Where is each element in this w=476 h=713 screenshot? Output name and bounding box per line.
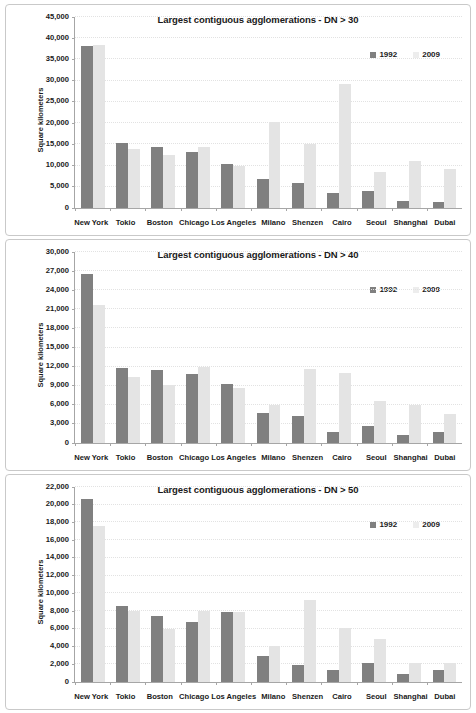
bar-2009 bbox=[409, 405, 421, 443]
bar-2009 bbox=[233, 388, 245, 443]
bar-group bbox=[321, 487, 356, 682]
x-tick-label: Cairo bbox=[325, 692, 359, 701]
bar-group bbox=[110, 17, 145, 208]
bar-group bbox=[145, 252, 180, 443]
x-tick-label: Shanghai bbox=[393, 692, 427, 701]
bar-group bbox=[145, 17, 180, 208]
x-tick-label: Shenzen bbox=[290, 218, 324, 227]
bar-1992 bbox=[221, 384, 233, 443]
bar-1992 bbox=[151, 616, 163, 682]
plot-area: 02,0004,0006,0008,00010,00012,00014,0001… bbox=[74, 487, 462, 683]
bar-2009 bbox=[409, 161, 421, 208]
bar-groups bbox=[75, 252, 462, 443]
bar-2009 bbox=[128, 377, 140, 443]
bar-2009 bbox=[163, 155, 175, 208]
bar-group bbox=[321, 17, 356, 208]
bar-2009 bbox=[128, 611, 140, 682]
x-tick-label: Shenzen bbox=[290, 453, 324, 462]
x-tick-label: Shanghai bbox=[393, 453, 427, 462]
y-tick-label: 10,000 bbox=[46, 588, 69, 597]
x-tick-label: Dubai bbox=[428, 218, 462, 227]
y-tick-label: 8,000 bbox=[50, 606, 69, 615]
bar-1992 bbox=[433, 670, 445, 682]
bar-1992 bbox=[433, 202, 445, 208]
y-tick-label: 30,000 bbox=[46, 247, 69, 256]
x-tick-label: New York bbox=[74, 218, 108, 227]
y-tick-label: 24,000 bbox=[46, 285, 69, 294]
bar-group bbox=[216, 17, 251, 208]
bar-group bbox=[75, 252, 110, 443]
y-tick-label: 16,000 bbox=[46, 535, 69, 544]
y-tick-label: 20,000 bbox=[46, 118, 69, 127]
bar-2009 bbox=[444, 663, 456, 682]
bar-2009 bbox=[444, 169, 456, 208]
bar-1992 bbox=[81, 499, 93, 682]
bar-1992 bbox=[433, 432, 445, 443]
x-tick-label: Tokio bbox=[108, 692, 142, 701]
y-tick-label: 2,000 bbox=[50, 659, 69, 668]
bar-1992 bbox=[116, 368, 128, 443]
bar-2009 bbox=[339, 373, 351, 443]
x-tick-label: Seoul bbox=[359, 453, 393, 462]
bar-group bbox=[251, 17, 286, 208]
bar-group bbox=[357, 487, 392, 682]
bar-1992 bbox=[292, 416, 304, 443]
x-tick-label: Chicago bbox=[177, 453, 211, 462]
x-tick-label: New York bbox=[74, 453, 108, 462]
bar-group bbox=[427, 487, 462, 682]
bar-2009 bbox=[374, 401, 386, 443]
bar-1992 bbox=[327, 193, 339, 208]
x-tick-label: Seoul bbox=[359, 692, 393, 701]
bar-1992 bbox=[327, 432, 339, 443]
x-tick-label: Dubai bbox=[428, 692, 462, 701]
y-tick-label: 3,000 bbox=[50, 418, 69, 427]
bar-2009 bbox=[339, 84, 351, 208]
y-tick-label: 27,000 bbox=[46, 266, 69, 275]
y-tick-label: 6,000 bbox=[50, 399, 69, 408]
bar-2009 bbox=[163, 629, 175, 682]
x-axis-labels: New YorkTokioBostonChicagoLos AngelesMil… bbox=[74, 453, 462, 462]
bar-2009 bbox=[269, 646, 281, 682]
bar-2009 bbox=[233, 612, 245, 682]
y-tick-label: 15,000 bbox=[46, 342, 69, 351]
bar-2009 bbox=[163, 385, 175, 443]
bar-1992 bbox=[151, 147, 163, 208]
bar-group bbox=[75, 487, 110, 682]
x-tick-label: Chicago bbox=[177, 692, 211, 701]
x-tick-label: Tokio bbox=[108, 218, 142, 227]
y-tick-label: 14,000 bbox=[46, 552, 69, 561]
bar-1992 bbox=[186, 374, 198, 443]
y-tick-label: 12,000 bbox=[46, 570, 69, 579]
bar-1992 bbox=[362, 191, 374, 208]
y-tick-label: 0 bbox=[65, 203, 69, 212]
bar-2009 bbox=[233, 166, 245, 208]
x-tick-label: Cairo bbox=[325, 218, 359, 227]
bar-group bbox=[427, 252, 462, 443]
bar-group bbox=[251, 487, 286, 682]
x-tick-label: Los Angeles bbox=[211, 453, 256, 462]
y-tick-label: 12,000 bbox=[46, 361, 69, 370]
bar-2009 bbox=[128, 149, 140, 208]
bar-2009 bbox=[304, 600, 316, 682]
bar-1992 bbox=[397, 674, 409, 682]
plot-area: 05,00010,00015,00020,00025,00030,00035,0… bbox=[74, 17, 462, 209]
x-tick-label: Chicago bbox=[177, 218, 211, 227]
bar-group bbox=[321, 252, 356, 443]
y-tick-label: 35,000 bbox=[46, 54, 69, 63]
bar-group bbox=[110, 252, 145, 443]
bar-group bbox=[392, 17, 427, 208]
x-tick-label: Shenzen bbox=[290, 692, 324, 701]
x-tick-label: Milano bbox=[256, 453, 290, 462]
bar-1992 bbox=[257, 179, 269, 208]
bar-1992 bbox=[397, 435, 409, 443]
bar-group bbox=[286, 17, 321, 208]
bar-2009 bbox=[198, 611, 210, 682]
x-tick-label: New York bbox=[74, 692, 108, 701]
y-tick-label: 10,000 bbox=[46, 160, 69, 169]
y-tick-label: 30,000 bbox=[46, 75, 69, 84]
bar-1992 bbox=[81, 274, 93, 443]
bar-group bbox=[427, 17, 462, 208]
bar-1992 bbox=[151, 370, 163, 443]
x-tick-label: Tokio bbox=[108, 453, 142, 462]
chart-page: Largest contiguous agglomerations - DN >… bbox=[0, 0, 476, 713]
